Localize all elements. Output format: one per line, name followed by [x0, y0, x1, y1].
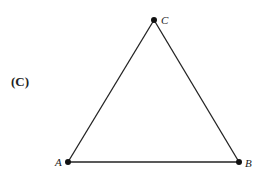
triangle-diagram: A B C: [0, 0, 262, 185]
vertex-b-point: [236, 159, 242, 165]
vertex-c-point: [151, 17, 157, 23]
vertex-a-label: A: [54, 156, 62, 168]
edge-bc: [154, 20, 239, 162]
vertex-a-point: [65, 159, 71, 165]
triangle-edges: [68, 20, 239, 162]
vertex-b-label: B: [245, 157, 252, 169]
edge-ca: [68, 20, 154, 162]
vertex-points: [65, 17, 242, 165]
vertex-c-label: C: [161, 14, 169, 26]
